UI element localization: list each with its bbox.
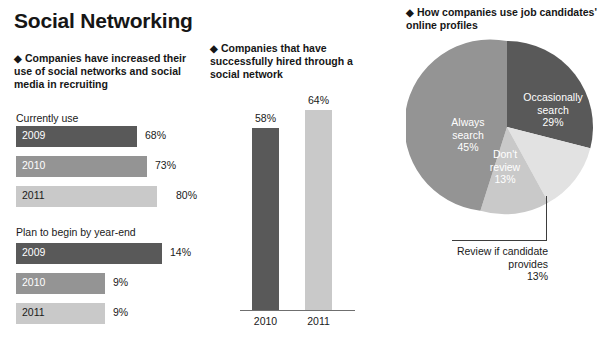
bar-label-current-2009: 2009 [22,129,45,141]
diamond-bullet-icon: ◆ [406,7,414,18]
callout-review-if-candidate-provides: Review if candidate provides 13% [430,245,548,283]
column-2010 [252,128,279,310]
bar-label-current-2011: 2011 [22,189,45,201]
group-label-currently-use: Currently use [16,112,78,124]
bar-value-plan-2010: 9% [113,276,128,288]
bar-value-plan-2009: 14% [170,246,191,258]
bar-label-plan-2011: 2011 [22,306,45,318]
panel-adoption-heading: ◆Companies have increased their use of s… [14,52,204,92]
column-value-2011: 64% [293,94,344,106]
diamond-bullet-icon: ◆ [210,43,218,54]
pie-label-occasionally-search: Occasionally search 29% [509,91,597,129]
column-value-2010: 58% [240,112,291,124]
diamond-bullet-icon: ◆ [14,53,22,64]
column-category-2010: 2010 [240,315,291,327]
callout-leader-line-horizontal [452,240,547,241]
bar-label-plan-2010: 2010 [22,276,45,288]
panel-hired-heading: ◆Companies that have successfully hired … [210,42,385,82]
panel-adoption-heading-text: Companies have increased their use of so… [14,52,186,90]
panel-profiles-heading-text: How companies use job candidates' online… [406,6,597,31]
panel-hired-heading-text: Companies that have successfully hired t… [210,42,353,80]
column-chart-baseline [240,310,355,311]
pie-chart: Always search 45% Occasionally search 29… [406,36,599,226]
column-2011 [305,110,332,310]
bar-value-current-2011: 80% [176,189,197,201]
bar-value-current-2010: 73% [155,159,176,171]
callout-leader-line-vertical [546,196,547,240]
panel-profiles-heading: ◆How companies use job candidates' onlin… [406,6,599,32]
column-category-2011: 2011 [293,315,344,327]
pie-label-dont-review: Don't review 13% [475,148,535,186]
bar-value-plan-2011: 9% [113,306,128,318]
bar-label-plan-2009: 2009 [22,246,45,258]
page-title: Social Networking [14,9,193,33]
bar-value-current-2009: 68% [145,129,166,141]
bar-label-current-2010: 2010 [22,159,45,171]
group-label-plan-to-begin: Plan to begin by year-end [16,226,136,238]
